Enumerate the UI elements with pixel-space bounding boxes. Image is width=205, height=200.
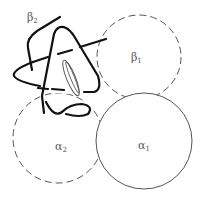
chain-segment-crossbar-lower bbox=[38, 88, 48, 89]
diagram-svg bbox=[0, 0, 205, 200]
label-beta1: β1 bbox=[131, 52, 142, 65]
label-beta2-index: 2 bbox=[33, 17, 37, 25]
label-alpha1-index: 1 bbox=[145, 145, 149, 153]
hemoglobin-diagram: β2 β1 α2 α1 bbox=[0, 0, 205, 200]
chain-segment-crossbar-upper-3 bbox=[80, 39, 106, 47]
chain-segment-crossbar-lower-2 bbox=[52, 89, 64, 90]
label-alpha1: α1 bbox=[138, 140, 150, 153]
label-alpha2: α2 bbox=[55, 141, 67, 154]
label-alpha2-index: 2 bbox=[62, 146, 66, 154]
label-beta2: β2 bbox=[27, 12, 38, 25]
label-beta1-index: 1 bbox=[137, 57, 141, 65]
chain-segment-crossbar-upper-2 bbox=[58, 50, 72, 54]
chain-segment-crossbar-upper bbox=[33, 57, 48, 62]
beta2-chain bbox=[14, 17, 106, 116]
